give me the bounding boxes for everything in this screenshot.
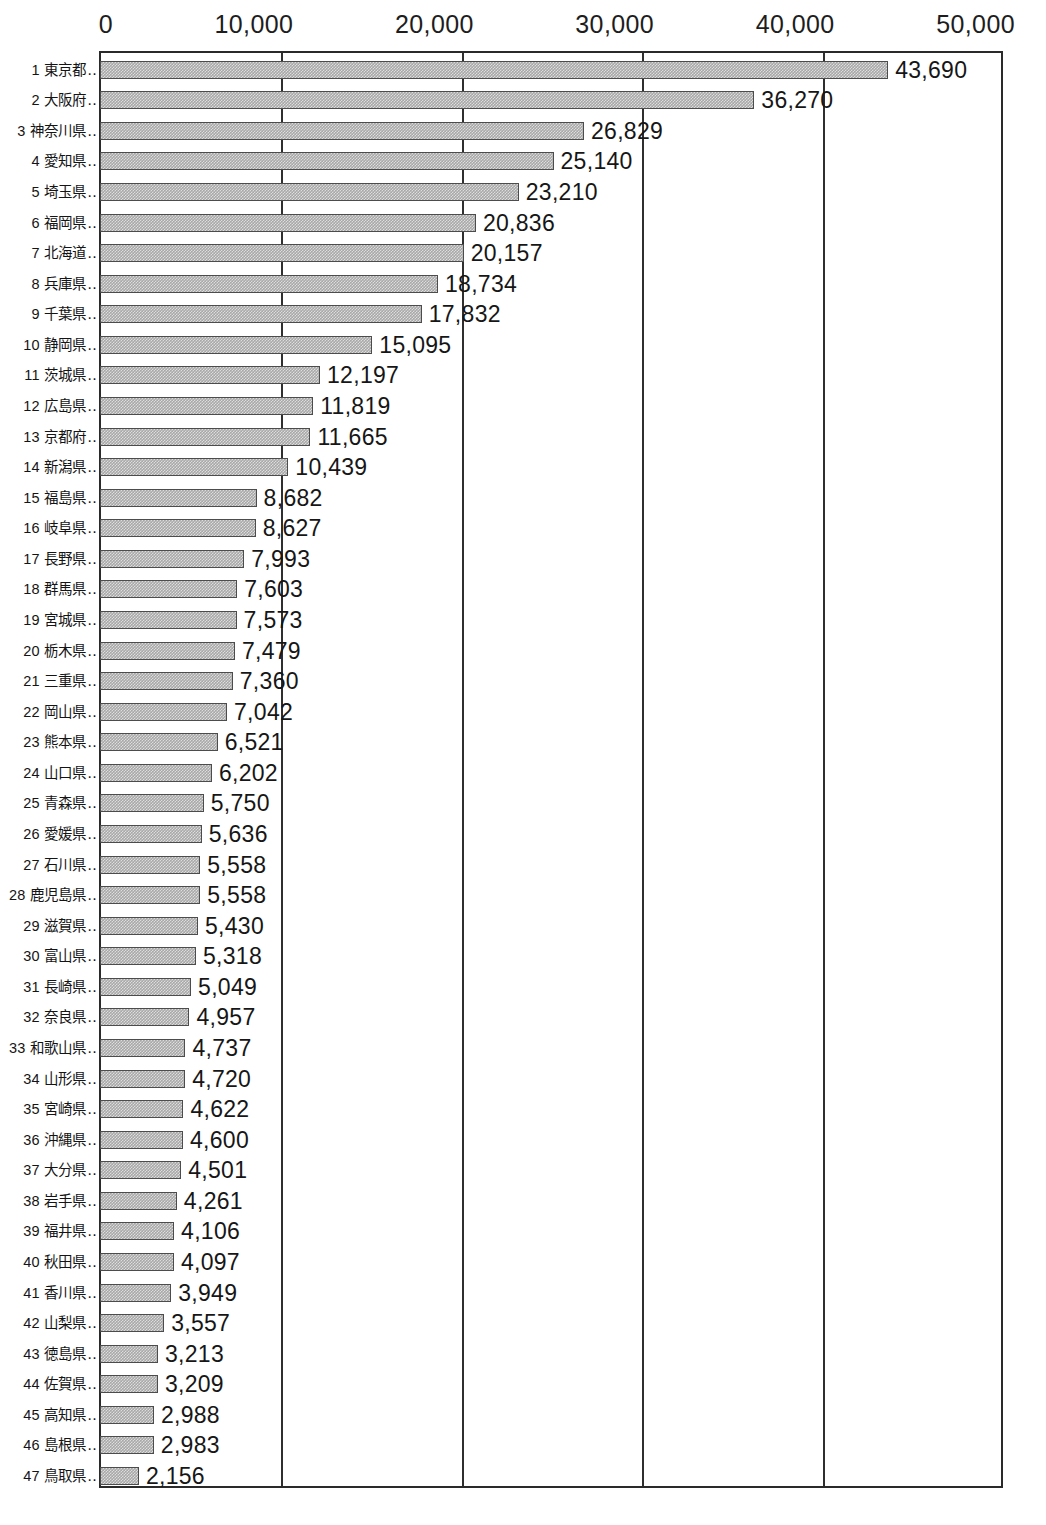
bar-row: 8兵庫県‥18,734 [0,268,1046,299]
category-name: 山梨県 [44,1315,87,1331]
label-leader: ‥ [87,1468,97,1484]
bar-value-label: 3,949 [178,1280,237,1306]
bar-row: 45高知県‥2,988 [0,1400,1046,1431]
rank-number: 26 [23,826,40,842]
label-leader: ‥ [87,1315,97,1331]
rank-number: 31 [23,978,40,994]
label-leader: ‥ [87,398,97,414]
category-label: 8兵庫県‥ [31,275,97,292]
category-label: 25青森県‥ [23,795,97,812]
label-leader: ‥ [87,978,97,994]
rank-number: 10 [23,336,40,352]
rank-number: 24 [23,764,40,780]
bar-value-label: 5,750 [211,790,270,816]
bar [100,336,372,354]
label-leader: ‥ [87,887,97,903]
category-name: 秋田県 [44,1254,87,1270]
label-leader: ‥ [87,184,97,200]
category-label: 1東京都‥ [31,61,97,78]
bar [100,794,204,812]
bar-value-label: 4,097 [181,1249,240,1275]
category-name: 山形県 [44,1070,87,1086]
category-label: 3神奈川県‥ [17,122,97,139]
bar-value-label: 7,603 [244,576,303,602]
bar-value-label: 4,106 [181,1218,240,1244]
category-name: 東京都 [44,61,87,77]
category-label: 34山形県‥ [23,1070,97,1087]
label-leader: ‥ [87,1070,97,1086]
rank-number: 32 [23,1009,40,1025]
bar [100,978,191,996]
bar-value-label: 7,042 [234,699,293,725]
category-label: 24山口県‥ [23,764,97,781]
bar-value-label: 4,600 [190,1127,249,1153]
rank-number: 39 [23,1223,40,1239]
category-label: 5埼玉県‥ [31,184,97,201]
bar-row: 34山形県‥4,720 [0,1063,1046,1094]
label-leader: ‥ [87,703,97,719]
bar [100,1436,154,1454]
rank-number: 11 [24,367,39,383]
category-name: 京都府 [44,428,87,444]
category-label: 9千葉県‥ [31,306,97,323]
rank-number: 44 [23,1376,40,1392]
bar-row: 37大分県‥4,501 [0,1155,1046,1186]
bar-row: 40秋田県‥4,097 [0,1247,1046,1278]
bar-row: 35宮崎県‥4,622 [0,1094,1046,1125]
category-label: 16岐阜県‥ [23,520,97,537]
bar-row: 1東京都‥43,690 [0,55,1046,86]
category-name: 静岡県 [44,336,87,352]
label-leader: ‥ [87,1284,97,1300]
category-name: 広島県 [44,398,87,414]
label-leader: ‥ [87,764,97,780]
rank-number: 13 [23,428,40,444]
bar-row: 44佐賀県‥3,209 [0,1369,1046,1400]
bar [100,152,554,170]
category-name: 岩手県 [44,1192,87,1208]
category-label: 29滋賀県‥ [23,917,97,934]
bar-row: 23熊本県‥6,521 [0,727,1046,758]
label-leader: ‥ [87,917,97,933]
bar-value-label: 4,720 [192,1066,251,1092]
bar [100,703,227,721]
rank-number: 5 [31,184,39,200]
bar [100,244,464,262]
label-leader: ‥ [87,459,97,475]
bar-value-label: 15,095 [379,332,451,358]
rank-number: 30 [23,948,40,964]
bar [100,1284,171,1302]
bar-value-label: 36,270 [761,87,833,113]
category-label: 28鹿児島県‥ [9,887,97,904]
bar [100,519,256,537]
label-leader: ‥ [87,581,97,597]
category-name: 滋賀県 [44,917,87,933]
category-name: 神奈川県 [30,122,87,138]
bar-value-label: 7,573 [244,607,303,633]
rank-number: 16 [23,520,40,536]
label-leader: ‥ [87,1437,97,1453]
label-leader: ‥ [87,642,97,658]
bar [100,1100,183,1118]
category-label: 21三重県‥ [23,673,97,690]
bar-row: 15福島県‥8,682 [0,482,1046,513]
category-label: 15福島県‥ [23,489,97,506]
category-name: 埼玉県 [44,184,87,200]
rank-number: 27 [23,856,40,872]
bar [100,917,198,935]
bar-row: 4愛知県‥25,140 [0,146,1046,177]
bar [100,1222,174,1240]
bar-value-label: 5,049 [198,974,257,1000]
bar [100,1131,183,1149]
bar-value-label: 18,734 [445,271,517,297]
category-label: 41香川県‥ [23,1284,97,1301]
category-name: 宮城県 [44,612,87,628]
category-name: 石川県 [44,856,87,872]
category-label: 23熊本県‥ [23,734,97,751]
rank-number: 3 [17,122,25,138]
category-name: 北海道 [44,245,87,261]
bar-value-label: 25,140 [561,148,633,174]
rank-number: 45 [23,1406,40,1422]
rank-number: 35 [23,1101,40,1117]
category-name: 山口県 [44,764,87,780]
label-leader: ‥ [87,1223,97,1239]
